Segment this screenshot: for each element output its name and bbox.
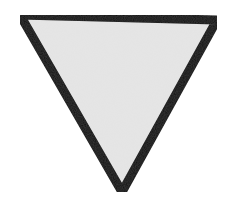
diagram-canvas <box>0 0 232 212</box>
inverted-triangle-icon <box>0 0 232 212</box>
triangle-shape <box>20 15 217 192</box>
